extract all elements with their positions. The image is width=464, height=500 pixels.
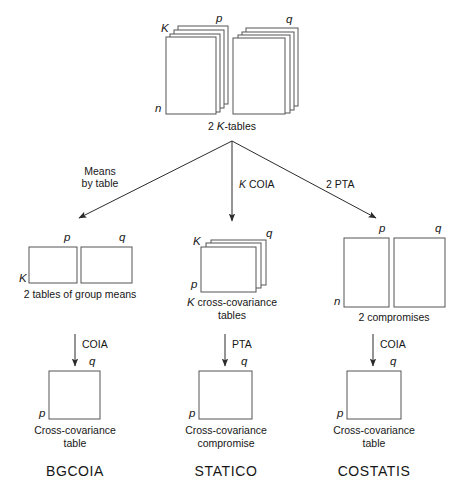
top-right-stack-cols-label: q xyxy=(286,13,292,27)
costatis-box1-left-label: n xyxy=(334,295,340,309)
bgcoia-box1-left-label: K xyxy=(19,272,27,286)
top-stack-left xyxy=(166,26,228,114)
top-caption: 2 K-tables xyxy=(208,120,256,134)
top-left-stack-cols-label: p xyxy=(216,12,222,26)
top-caption-prefix: 2 xyxy=(208,120,217,132)
statico-bottom-caption-line2: compromise xyxy=(185,437,267,450)
bottom-square-costatis xyxy=(347,371,401,419)
branch-label-k-coia: K COIA xyxy=(239,178,275,190)
bgcoia-box2-top-label: q xyxy=(119,231,125,245)
statico-caption-rest: cross-covariance xyxy=(195,296,277,308)
costatis-bottom-caption: Cross-covariance table xyxy=(333,424,415,450)
costatis-bottom-caption-line1: Cross-covariance xyxy=(333,424,415,437)
statico-middle-caption-line1: K cross-covariance xyxy=(187,295,277,309)
costatis-bottom-bottom-left-label: p xyxy=(337,407,343,421)
branch-label-means-line1: Means xyxy=(82,165,119,177)
bgcoia-bottom-top-right-label: q xyxy=(89,355,95,369)
statico-bottom-bottom-left-label: p xyxy=(189,407,195,421)
middle-boxes-costatis xyxy=(344,238,445,307)
branch-label-k-coia-italic: K xyxy=(239,178,246,190)
statico-middle-caption: K cross-covariance tables xyxy=(187,295,277,322)
top-caption-suffix: -tables xyxy=(224,120,256,132)
bgcoia-bottom-caption-line2: table xyxy=(34,437,116,450)
bgcoia-middle-caption: 2 tables of group means xyxy=(24,288,137,300)
bgcoia-bottom-caption: Cross-covariance table xyxy=(34,424,116,450)
statico-bottom-caption: Cross-covariance compromise xyxy=(185,424,267,450)
statico-bottom-top-right-label: q xyxy=(241,355,247,369)
middle-stack-statico xyxy=(201,240,266,292)
top-left-stack-rows-label: n xyxy=(155,102,161,116)
branch-label-means-line2: by table xyxy=(82,177,119,189)
statico-bottom-caption-line1: Cross-covariance xyxy=(185,424,267,437)
method-name-costatis: COSTATIS xyxy=(338,463,411,480)
costatis-step-arrow-label: COIA xyxy=(380,338,406,350)
top-left-stack-depth-label: K xyxy=(161,22,169,36)
bgcoia-step-arrow-label: COIA xyxy=(82,338,108,350)
statico-stack-bottom-left-label: p xyxy=(191,278,197,292)
top-stack-right xyxy=(233,28,298,114)
statico-step-arrow-label: PTA xyxy=(232,338,252,350)
costatis-bottom-caption-line2: table xyxy=(333,437,415,450)
bottom-square-statico xyxy=(199,371,252,419)
statico-caption-italic-k: K xyxy=(187,296,195,308)
method-name-bgcoia: BGCOIA xyxy=(46,463,104,480)
branch-label-2-pta: 2 PTA xyxy=(326,178,354,190)
bgcoia-bottom-bottom-left-label: p xyxy=(39,407,45,421)
costatis-box1-top-label: p xyxy=(379,222,385,236)
statico-stack-top-right-label: q xyxy=(266,227,272,241)
costatis-bottom-top-right-label: q xyxy=(390,355,396,369)
costatis-middle-caption: 2 compromises xyxy=(358,311,429,323)
bottom-square-bgcoia xyxy=(49,371,100,419)
statico-stack-depth-label: K xyxy=(193,235,201,249)
bgcoia-bottom-caption-line1: Cross-covariance xyxy=(34,424,116,437)
method-name-statico: STATICO xyxy=(195,463,258,480)
middle-boxes-bgcoia xyxy=(29,247,132,283)
costatis-box2-top-label: q xyxy=(435,222,441,236)
bgcoia-box1-top-label: p xyxy=(64,231,70,245)
diagram-canvas: K p n q 2 K-tables Means by table K COIA… xyxy=(0,0,464,500)
branch-label-means-by-table: Means by table xyxy=(82,165,119,190)
branch-label-k-coia-text: COIA xyxy=(246,178,275,190)
statico-middle-caption-line2: tables xyxy=(187,309,277,322)
